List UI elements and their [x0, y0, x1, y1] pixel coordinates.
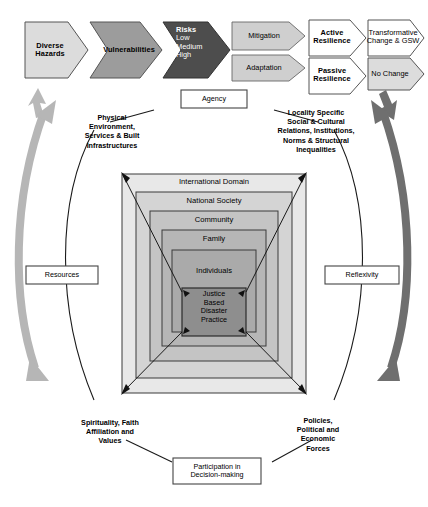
level-label-justice-based-disaster-practice: Justice Based Disaster Practice — [182, 290, 246, 325]
chevron-label-diverse-hazards: Diverse Hazards — [24, 42, 76, 59]
level-label-family: Family — [162, 235, 266, 244]
chevron-line: Mitigation — [236, 32, 292, 40]
level-label-community: Community — [150, 216, 278, 225]
corner-line: Physical — [62, 113, 162, 122]
corner-line: Economic — [272, 434, 364, 443]
corner-line: Spirituality, Faith — [56, 418, 164, 427]
chevron-label-risks: Risks Low Medium High — [176, 26, 224, 59]
chevron-label-vulnerabilities: Vulnerabilities — [100, 46, 158, 54]
corner-line: Environment, — [62, 122, 162, 131]
corner-text-top-left: Physical Environment, Services & Built I… — [62, 113, 162, 150]
left-cycle-arc — [19, 112, 44, 368]
connector-arc-right — [334, 130, 363, 400]
corner-line: Policies, — [272, 416, 364, 425]
corner-line: Values — [56, 436, 164, 445]
chevron-label-no-change: No Change — [364, 70, 416, 78]
chevron-label-active-resilience: Active Resilience — [306, 29, 358, 46]
corner-text-bottom-right: Policies, Political and Economic Forces — [272, 416, 364, 453]
label-agency: Agency — [181, 95, 247, 103]
corner-line: Affiliation and — [56, 427, 164, 436]
chevron-label-transformative-change: Transformative Change & GSW — [364, 29, 422, 46]
participation-line: Decision-making — [173, 471, 261, 479]
corner-text-bottom-left: Spirituality, Faith Affiliation and Valu… — [56, 418, 164, 446]
corner-line: Inequalities — [258, 145, 374, 154]
chevron-label-mitigation: Mitigation — [236, 32, 292, 40]
label-reflexivity: Reflexivity — [325, 271, 399, 279]
corner-line: Infrastructures — [62, 141, 162, 150]
chevron-label-adaptation: Adaptation — [236, 64, 292, 72]
corner-line: Locality Specific — [258, 108, 374, 117]
corner-text-top-right: Locality Specific Social & Cultural Rela… — [258, 108, 374, 154]
connector-arc-left — [66, 130, 95, 400]
chevron-line: Adaptation — [236, 64, 292, 72]
right-cycle-arrow-head-bottom — [377, 358, 400, 381]
chevron-line: High — [176, 51, 224, 59]
chevron-line: Change & GSW — [364, 37, 422, 45]
level-label-international-domain: International Domain — [122, 178, 306, 187]
chevron-line: Resilience — [306, 75, 358, 83]
chevron-line: Resilience — [306, 37, 358, 45]
corner-line: Political and — [272, 425, 364, 434]
diagram-canvas: Diverse Hazards Vulnerabilities Risks Lo… — [0, 0, 428, 507]
corner-line: Relations, Institutions, — [258, 126, 374, 135]
chevron-label-passive-resilience: Passive Resilience — [306, 67, 358, 84]
corner-line: Social & Cultural — [258, 117, 374, 126]
label-resources: Resources — [26, 271, 98, 279]
level-label-national-society: National Society — [136, 197, 292, 206]
corner-line: Services & Built — [62, 131, 162, 140]
chevron-line: Hazards — [24, 50, 76, 58]
right-cycle-arc — [383, 112, 407, 368]
corner-line: Forces — [272, 444, 364, 453]
level-label-individuals: Individuals — [172, 267, 256, 276]
corner-line: Norms & Structural — [258, 136, 374, 145]
chevron-line: No Change — [364, 70, 416, 78]
chevron-line: Vulnerabilities — [100, 46, 158, 54]
label-participation: Participation in Decision-making — [173, 463, 261, 479]
core-line: Practice — [182, 316, 246, 325]
left-cycle-arrow-head-bottom — [26, 357, 49, 381]
